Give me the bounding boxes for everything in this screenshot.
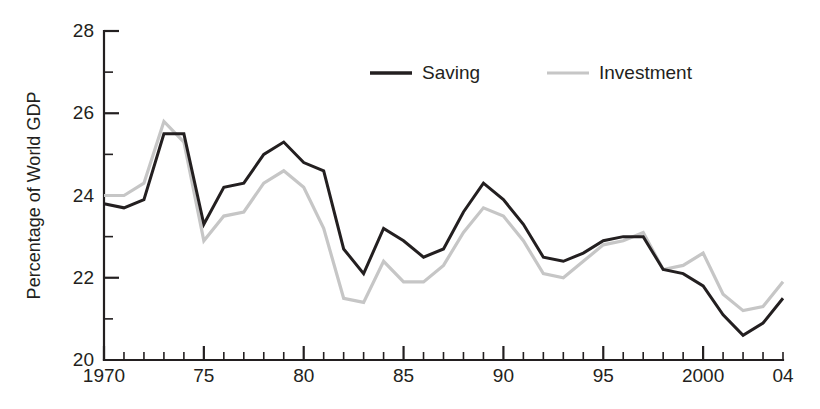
x-tick-label: 1970 [83,365,125,386]
series-line-saving [104,134,783,336]
legend-label-investment: Investment [599,62,693,83]
savings-investment-line-chart: 202224262819707580859095200004 SavingInv… [0,0,820,409]
y-axis-title: Percentage of World GDP [24,92,44,300]
x-tick-label: 80 [293,365,314,386]
chart-legend: SavingInvestment [370,62,693,83]
series-lines [104,121,783,335]
series-line-investment [104,121,783,310]
y-tick-label: 28 [73,20,94,41]
x-tick-label: 04 [772,365,794,386]
x-tick-label: 85 [393,365,414,386]
y-tick-label: 22 [73,267,94,288]
x-tick-label: 95 [593,365,614,386]
y-tick-label: 26 [73,102,94,123]
chart-figure: 202224262819707580859095200004 SavingInv… [0,0,820,409]
x-tick-label: 90 [493,365,514,386]
axis-titles: Percentage of World GDP [24,92,44,300]
legend-label-saving: Saving [422,62,480,83]
x-tick-label: 75 [193,365,214,386]
y-tick-label: 24 [73,185,95,206]
x-tick-label: 2000 [682,365,724,386]
